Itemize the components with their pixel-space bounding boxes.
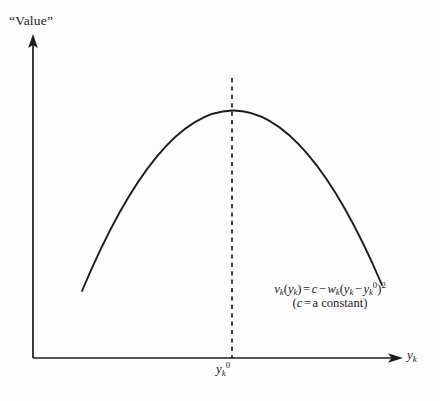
eq-inner-minus-sign: −	[353, 282, 363, 296]
tick-label-superscript: 0	[226, 360, 230, 370]
eq-equals-sign: =	[302, 282, 312, 296]
note-text: a constant	[312, 296, 363, 310]
eq-weight-base: w	[327, 282, 335, 296]
y-axis	[28, 34, 38, 358]
eq-power-superscript: 2	[381, 280, 385, 290]
x-axis-label-subscript: k	[413, 354, 417, 364]
figure-canvas: “Value” yk yk0 vk(yk)=c−wk(yk−yk0)2 (c=a…	[0, 0, 440, 401]
eq-minus-sign: −	[317, 282, 327, 296]
eq-close-paren: )	[297, 282, 301, 296]
note-equals-sign: =	[302, 296, 312, 310]
y-axis-label: “Value”	[9, 14, 53, 28]
equation-annotation: vk(yk)=c−wk(yk−yk0)2 (c=a constant)	[252, 283, 408, 310]
x-axis-tick-label: yk0	[216, 362, 230, 376]
x-axis-label: yk	[407, 348, 417, 362]
equation-line: vk(yk)=c−wk(yk−yk0)2	[252, 283, 408, 296]
plot-svg	[0, 0, 440, 401]
note-close-paren: )	[363, 296, 367, 310]
constant-note-line: (c=a constant)	[252, 297, 408, 310]
